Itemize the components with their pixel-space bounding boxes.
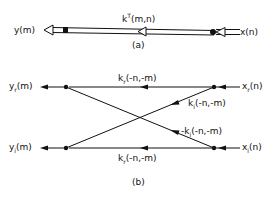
part-a-kernel-label: kT(m,n) <box>122 14 155 24</box>
branch-label-upper-diagonal: ki(-n,-m) <box>188 98 226 108</box>
output-yi-label: yi(m) <box>9 142 32 152</box>
part-b-butterfly <box>44 87 240 148</box>
branch-label-lower-diagonal: -ki(-n,-m) <box>181 126 222 136</box>
part-a-operator-arrow <box>44 25 240 37</box>
part-a-input-label: x(n) <box>240 27 258 37</box>
input-xr-label: xr(n) <box>242 81 263 91</box>
part-b-arrowheads <box>40 85 226 151</box>
node-a-input <box>210 29 216 35</box>
part-b-caption: (b) <box>132 177 145 187</box>
part-a-caption: (a) <box>132 40 145 50</box>
branch-label-top: kr(-n,-m) <box>118 73 157 83</box>
part-a-output-label: y(m) <box>14 25 35 35</box>
branch-label-bottom: kr(-n,-m) <box>118 153 157 163</box>
input-xi-label: xi(n) <box>242 142 262 152</box>
kernel-args: (m,n) <box>131 14 155 24</box>
signal-flow-graphics <box>0 0 277 197</box>
node-a-output <box>63 27 68 33</box>
output-yr-label: yr(m) <box>9 81 33 91</box>
